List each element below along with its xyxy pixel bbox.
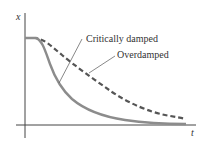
critical-label: Critically damped <box>86 33 158 44</box>
chart: x t Critically damped Overdamped <box>0 0 207 145</box>
over-label: Overdamped <box>117 49 169 60</box>
over-leader-line <box>89 56 115 73</box>
x-axis-label: t <box>191 127 194 138</box>
y-axis-label: x <box>15 11 21 22</box>
critical-leader-line <box>59 39 82 83</box>
